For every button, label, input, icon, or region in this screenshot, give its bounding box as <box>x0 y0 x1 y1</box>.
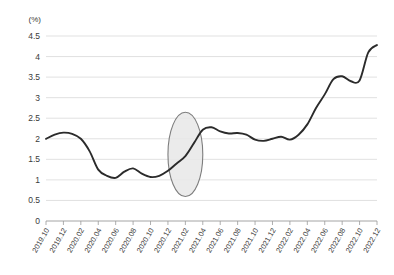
y-axis-tick-label: 3 <box>35 93 40 103</box>
y-axis-tick-label: 4.5 <box>28 31 40 41</box>
y-axis-labels: 00.511.522.533.544.5 <box>28 31 40 226</box>
highlight-ellipse <box>168 112 203 196</box>
gridlines <box>46 36 377 200</box>
x-axis-labels: 2019.102019.122020.022020.042020.062020.… <box>30 227 382 255</box>
y-axis-tick-label: 0 <box>35 216 40 226</box>
line-chart: 00.511.522.533.544.5 2019.102019.122020.… <box>0 0 394 275</box>
chart-annotations <box>168 112 203 196</box>
y-axis-tick-label: 0.5 <box>28 195 40 205</box>
chart-canvas: 00.511.522.533.544.5 2019.102019.122020.… <box>0 0 394 275</box>
y-axis-tick-label: 2 <box>35 134 40 144</box>
data-series <box>46 45 377 178</box>
y-axis-unit-label: (%) <box>29 15 42 24</box>
y-axis-tick-label: 1 <box>35 175 40 185</box>
axes <box>46 221 377 225</box>
y-axis-tick-label: 1.5 <box>28 154 40 164</box>
y-axis-tick-label: 2.5 <box>28 113 40 123</box>
x-axis-tick-label: 2022.12 <box>361 227 382 255</box>
y-axis-tick-label: 3.5 <box>28 72 40 82</box>
y-axis-tick-label: 4 <box>35 52 40 62</box>
series-line <box>46 45 377 178</box>
